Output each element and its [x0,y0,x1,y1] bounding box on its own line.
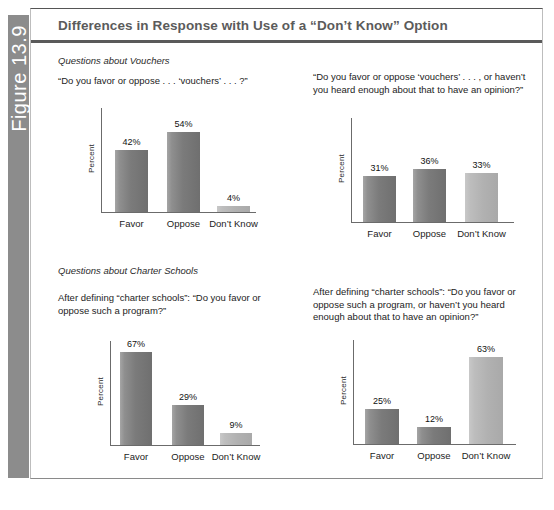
y-axis-line [110,341,111,445]
bar-value-label: 12% [407,414,461,424]
bar-value-label: 63% [459,344,513,354]
y-axis-label: Percent [337,147,346,191]
bar-don-t-know [217,206,250,212]
y-axis-label: Percent [339,368,348,412]
figure-number-label: Figure 13.9 [7,25,30,132]
bar-favor [363,176,396,222]
bar-favor [115,150,148,212]
question-text-vouchers-no-dk: “Do you favor or oppose . . . ‘vouchers’… [58,75,283,88]
bar-value-label: 31% [353,163,406,173]
bar-don-t-know [465,173,498,222]
y-axis-label: Percent [87,136,96,180]
bar-oppose [172,405,204,445]
bar-oppose [413,169,446,222]
bar-chart-vouchers-no-dk: Percent42%Favor54%Oppose4%Don’t Know [58,102,283,242]
figure-number-spine: Figure 13.9 [8,15,29,478]
bar-favor [365,409,399,444]
y-axis-line [101,108,102,212]
panel-vouchers-with-dk: “Do you favor or oppose ‘vouchers’ . . .… [313,55,529,252]
question-text-vouchers-with-dk: “Do you favor or oppose ‘vouchers’ . . .… [313,71,529,96]
bar-value-label: 54% [157,119,210,129]
bar-value-label: 36% [403,156,456,166]
panel-charter-with-dk: After defining “charter schools”: “Do yo… [313,286,529,474]
y-axis-line [353,340,354,444]
x-axis-line [351,222,514,223]
x-axis-tick-label: Don’t Know [200,218,267,229]
figure-container: Differences in Response with Use of a “D… [30,8,543,479]
bar-value-label: 9% [210,420,262,430]
y-axis-label: Percent [96,370,105,414]
question-text-charter-no-dk: After defining “charter schools”: “Do yo… [58,292,280,317]
page-title: Differences in Response with Use of a “D… [58,18,448,33]
bar-oppose [167,132,200,212]
bar-chart-charter-no-dk: Percent67%Favor29%Oppose9%Don’t Know [58,335,283,475]
bar-don-t-know [469,357,503,444]
question-text-charter-with-dk: After defining “charter schools”: “Do yo… [313,286,529,324]
x-axis-tick-label: Don’t Know [448,228,515,239]
y-axis-line [351,118,352,222]
x-axis-tick-label: Don’t Know [452,450,520,461]
panel-charter-no-dk: Questions about Charter Schools After de… [58,265,283,475]
x-axis-line [101,212,256,213]
panel-vouchers-no-dk: Questions about Vouchers “Do you favor o… [58,55,283,242]
bar-value-label: 42% [105,137,158,147]
bar-don-t-know [220,433,252,445]
x-axis-tick-label: Don’t Know [203,451,269,462]
x-axis-line [110,445,260,446]
bar-oppose [417,427,451,444]
bar-value-label: 67% [110,339,162,349]
x-axis-line [353,444,516,445]
figure-title-bar: Differences in Response with Use of a “D… [31,9,542,43]
bar-chart-vouchers-with-dk: Percent31%Favor36%Oppose33%Don’t Know [313,112,529,252]
bar-value-label: 29% [162,392,214,402]
bar-value-label: 33% [455,160,508,170]
bar-chart-charter-with-dk: Percent25%Favor12%Oppose63%Don’t Know [313,334,529,474]
bar-value-label: 4% [207,193,260,203]
section-heading-vouchers: Questions about Vouchers [58,55,283,66]
bar-value-label: 25% [355,396,409,406]
bar-favor [120,352,152,445]
section-heading-charter: Questions about Charter Schools [58,265,283,276]
